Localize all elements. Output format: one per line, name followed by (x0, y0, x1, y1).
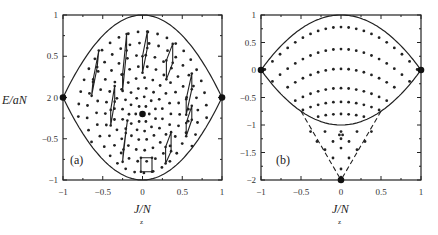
rhombus-vertex (125, 49, 128, 52)
rhombus (166, 44, 172, 80)
data-point (156, 33, 159, 36)
data-point (324, 130, 327, 133)
data-point (169, 113, 172, 116)
rhombus-vertex (141, 55, 144, 58)
data-point (155, 68, 158, 71)
x-tick-label: −0.5 (95, 187, 112, 197)
data-point (108, 134, 111, 137)
data-point (205, 116, 208, 119)
data-point (294, 99, 297, 102)
data-point (168, 102, 171, 105)
data-point (152, 146, 155, 149)
data-point (355, 102, 358, 105)
data-point (378, 95, 381, 98)
panel-a-xlabel-subscript: z (140, 218, 143, 226)
data-point (192, 85, 195, 88)
data-point (134, 113, 137, 116)
rhombus-vertex (96, 66, 99, 69)
data-point (185, 96, 188, 99)
rhombus-vertex (164, 162, 167, 165)
data-point (316, 140, 319, 143)
data-point (105, 124, 108, 127)
rhombus-vertex (151, 156, 154, 159)
data-point (113, 118, 116, 121)
data-point (271, 80, 274, 83)
data-point (113, 107, 116, 110)
data-point (348, 157, 351, 160)
data-point (154, 56, 157, 59)
y-tick-label: −2 (246, 175, 256, 185)
rhombus-vertex (170, 150, 173, 153)
panel-a-frame (63, 15, 222, 180)
rhombus-vertex (113, 100, 116, 103)
data-point (148, 42, 151, 45)
data-point (309, 54, 312, 57)
data-point (96, 100, 99, 103)
data-point (86, 116, 89, 119)
data-point (130, 91, 133, 94)
data-point (309, 130, 312, 133)
data-point (146, 65, 149, 68)
data-point (144, 120, 147, 123)
data-point (195, 68, 198, 71)
data-point (162, 60, 165, 63)
data-point (162, 74, 165, 77)
x-tick-label: −1 (256, 187, 266, 197)
rhombus-vertex (164, 146, 167, 149)
data-point (158, 127, 161, 130)
data-point (133, 171, 136, 174)
panel-b-xlabel: J/N (332, 202, 350, 216)
rhombus-vertex (90, 95, 93, 98)
data-point (88, 92, 91, 95)
panel-a-ticks: −1−0.500.51−1−0.52 00.51 (42, 10, 225, 197)
data-point (145, 87, 148, 90)
data-point (302, 58, 305, 61)
data-point (158, 98, 161, 101)
data-point (317, 115, 320, 118)
data-point (90, 141, 93, 144)
data-point (127, 32, 130, 35)
data-point (271, 60, 274, 63)
data-point (378, 58, 381, 61)
data-point (370, 92, 373, 95)
data-point (182, 49, 185, 52)
data-point (135, 97, 138, 100)
fixed-point (338, 177, 345, 184)
data-point (146, 31, 149, 34)
rhombus-vertex (140, 170, 143, 173)
rhombus-vertex (190, 72, 193, 75)
data-point (135, 148, 138, 151)
x-tick-label: 0 (140, 187, 145, 197)
data-point (340, 168, 343, 171)
data-point (347, 113, 350, 116)
data-point (174, 42, 177, 45)
data-point (136, 160, 139, 163)
data-point (120, 152, 123, 155)
data-point (302, 36, 305, 39)
data-point (137, 31, 140, 34)
data-point (124, 98, 127, 101)
data-point (393, 86, 396, 89)
data-point (108, 90, 111, 93)
data-point (143, 76, 146, 79)
data-point (159, 141, 162, 144)
data-point (196, 121, 199, 124)
data-point (138, 120, 141, 123)
data-point (174, 56, 177, 59)
y-tick-label: 1 (54, 10, 59, 20)
data-point (101, 49, 104, 52)
data-point (370, 32, 373, 35)
data-point (187, 120, 190, 123)
data-point (182, 85, 185, 88)
panel-b-xlabel-subscript: z (338, 218, 341, 226)
data-point (150, 126, 153, 129)
data-point (187, 108, 190, 111)
data-point (189, 58, 192, 61)
rhombus-vertex (185, 135, 188, 138)
data-point (332, 113, 335, 116)
data-point (99, 88, 102, 91)
data-point (175, 152, 178, 155)
data-point (324, 88, 327, 91)
data-point (99, 135, 102, 138)
panel-b: −1−0.500.51−2−1.5−1−0.500.51 (b) J/N z (240, 10, 425, 226)
